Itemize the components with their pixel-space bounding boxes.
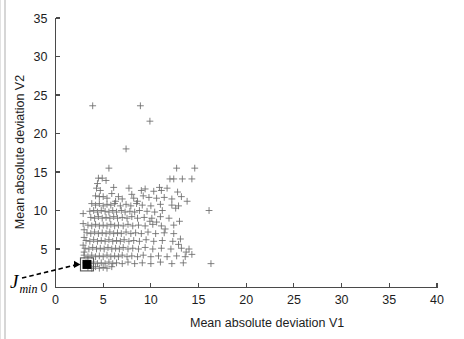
scatter-point xyxy=(93,246,100,253)
scatter-point xyxy=(126,238,133,245)
scatter-point xyxy=(90,207,97,214)
scatter-point xyxy=(178,245,185,252)
scatter-point xyxy=(168,196,175,203)
scatter-point xyxy=(113,237,120,244)
scatter-point xyxy=(141,214,148,221)
scatter-point xyxy=(120,223,127,230)
scatter-point xyxy=(85,246,92,253)
scatter-point xyxy=(106,229,113,236)
scatter-point xyxy=(126,185,133,192)
scatter-point xyxy=(147,118,154,125)
scatter-point xyxy=(168,260,175,267)
scatter-point xyxy=(104,223,111,230)
x-tick-label: 10 xyxy=(144,293,158,307)
scatter-point xyxy=(138,230,145,237)
scatter-point xyxy=(108,190,115,197)
scatter-point xyxy=(159,207,166,214)
scatter-point xyxy=(103,214,110,221)
scatter-point xyxy=(168,202,175,209)
scatter-point xyxy=(115,253,122,260)
scatter-point xyxy=(170,222,177,229)
scatter-point xyxy=(85,222,92,229)
scatter-point xyxy=(106,215,113,222)
scatter-point xyxy=(104,265,111,272)
scatter-point xyxy=(87,230,94,237)
scatter-point xyxy=(118,230,125,237)
jmin-arrowhead xyxy=(74,261,81,268)
scatter-point xyxy=(99,215,106,222)
scatter-point xyxy=(127,230,134,237)
scatter-point xyxy=(116,246,123,253)
y-tick-label: 20 xyxy=(34,127,48,141)
x-tick-label: 30 xyxy=(335,293,349,307)
scatter-point xyxy=(131,260,138,267)
scatter-point xyxy=(147,260,154,267)
x-axis-title: Mean absolute deviation V1 xyxy=(190,316,344,330)
scatter-point xyxy=(106,165,113,172)
scatter-point xyxy=(148,215,155,222)
scatter-point xyxy=(135,246,142,253)
scatter-point xyxy=(80,242,87,249)
scatter-point xyxy=(114,229,121,236)
scatter-point xyxy=(107,221,114,228)
scatter-point xyxy=(94,209,101,216)
scatter-point xyxy=(130,195,137,202)
scatter-point xyxy=(173,253,180,260)
scatter-point xyxy=(150,238,157,245)
scatter-point xyxy=(191,165,198,172)
scatter-point xyxy=(108,246,115,253)
scatter-point xyxy=(89,244,96,251)
scatter-point xyxy=(104,201,111,208)
scatter-point xyxy=(158,223,165,230)
jmin-arrow-line xyxy=(22,265,76,278)
scatter-point xyxy=(147,253,154,260)
scatter-point xyxy=(146,194,153,201)
scatter-point xyxy=(169,238,176,245)
y-tick-label: 5 xyxy=(41,243,48,257)
y-tick-label: 15 xyxy=(34,166,48,180)
scatter-point xyxy=(95,230,102,237)
scatter-point xyxy=(170,230,177,237)
scatter-point xyxy=(119,260,126,267)
scatter-point xyxy=(121,236,128,243)
scatter-point xyxy=(142,244,149,251)
y-axis-title: Mean absolute deviation V2 xyxy=(13,75,27,229)
scatter-point xyxy=(106,259,113,266)
scatter-point xyxy=(95,213,102,220)
scatter-point xyxy=(87,214,94,221)
scatter-point xyxy=(88,223,95,230)
scatter-point xyxy=(161,194,168,201)
scatter-point xyxy=(152,230,159,237)
scatter-point xyxy=(130,237,137,244)
scatter-point xyxy=(115,222,122,229)
scatter-point xyxy=(147,218,154,225)
scatter-point xyxy=(98,237,105,244)
scatter-point xyxy=(144,208,151,215)
scatter-point xyxy=(107,202,114,209)
scatter-point xyxy=(136,238,143,245)
scatter-point xyxy=(134,215,141,222)
scatter-point xyxy=(149,246,156,253)
scatter-point xyxy=(206,207,213,214)
scatter-point xyxy=(123,146,130,153)
data-points xyxy=(80,102,215,271)
scatter-point xyxy=(98,207,105,214)
scatter-point xyxy=(178,193,185,200)
scatter-point xyxy=(117,238,124,245)
scatter-point xyxy=(122,209,129,216)
scatter-point xyxy=(157,201,164,208)
jmin-annotation: Jmin xyxy=(10,258,93,296)
scatter-point xyxy=(128,213,135,220)
scatter-point xyxy=(114,215,121,222)
scatter-point xyxy=(100,222,107,229)
scatter-point xyxy=(111,223,118,230)
scatter-point xyxy=(97,245,104,252)
y-tick-label: 35 xyxy=(34,12,48,26)
y-tick-label: 0 xyxy=(41,281,48,295)
scatter-point xyxy=(104,252,111,259)
scatter-point xyxy=(128,191,135,198)
scatter-point xyxy=(88,200,95,207)
scatter-point xyxy=(124,215,131,222)
scatter-point xyxy=(91,215,98,222)
scatter-point xyxy=(125,259,132,266)
